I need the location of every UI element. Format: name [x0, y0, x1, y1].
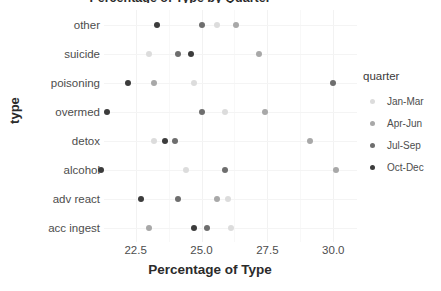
data-point [199, 109, 205, 115]
chart-title: Percentage of Type by Quarter [0, 0, 360, 3]
x-tick-label: 30.0 [322, 244, 344, 256]
data-point [183, 167, 189, 173]
y-tick-label: poisoning [4, 77, 100, 89]
data-point [333, 167, 339, 173]
scatter-chart: Percentage of Type by Quarter type other… [0, 0, 441, 291]
x-axis-title: Percentage of Type [60, 262, 360, 277]
data-point [146, 51, 152, 57]
y-tick-label: detox [4, 135, 100, 147]
gridline-major [333, 10, 334, 242]
data-point [262, 109, 268, 115]
data-point [104, 109, 110, 115]
data-point [175, 51, 181, 57]
legend-label: Jul-Sep [387, 140, 421, 151]
data-point [151, 80, 157, 86]
data-point [222, 109, 228, 115]
data-point [233, 22, 239, 28]
legend-item[interactable]: Jul-Sep [363, 134, 441, 156]
data-point [125, 80, 131, 86]
x-tick-label: 27.5 [256, 244, 278, 256]
data-point [225, 196, 231, 202]
data-point [162, 138, 168, 144]
legend-item[interactable]: Apr-Jun [363, 112, 441, 134]
legend-item[interactable]: Oct-Dec [363, 156, 441, 178]
data-point [98, 167, 104, 173]
data-point [214, 196, 220, 202]
gridline-row [104, 112, 357, 113]
data-point [330, 80, 336, 86]
y-tick-label: acc ingest [4, 222, 100, 234]
y-tick-label: adv react [4, 193, 100, 205]
gridline-minor [234, 10, 235, 242]
data-point [154, 22, 160, 28]
gridline-row [104, 54, 357, 55]
legend-label: Oct-Dec [387, 162, 424, 173]
legend-dot-icon [370, 99, 375, 104]
data-point [204, 225, 210, 231]
data-point [172, 138, 178, 144]
legend-dot-icon [370, 143, 375, 148]
data-point [151, 138, 157, 144]
legend-label: Apr-Jun [387, 118, 422, 129]
gridline-minor [169, 10, 170, 242]
gridline-major [202, 10, 203, 242]
gridline-row [104, 83, 357, 84]
x-tick-label: 22.5 [124, 244, 146, 256]
gridline-minor [300, 10, 301, 242]
legend-entries: Jan-MarApr-JunJul-SepOct-Dec [363, 90, 441, 178]
legend-dot-icon [370, 165, 375, 170]
gridline-row [104, 170, 357, 171]
y-tick-label: overmed [4, 106, 100, 118]
gridline-row [104, 25, 357, 26]
legend-swatch [363, 99, 381, 104]
data-point [191, 225, 197, 231]
y-tick-label: alcohol [4, 164, 100, 176]
legend-label: Jan-Mar [387, 96, 424, 107]
data-point [175, 196, 181, 202]
gridline-row [104, 141, 357, 142]
legend-dot-icon [370, 121, 375, 126]
data-point [188, 51, 194, 57]
y-tick-label: suicide [4, 48, 100, 60]
x-tick-label: 25.0 [190, 244, 212, 256]
data-point [307, 138, 313, 144]
x-axis-tick-labels: 22.525.027.530.0 [104, 244, 357, 260]
gridline-major [267, 10, 268, 242]
data-point [191, 80, 197, 86]
legend: quarter Jan-MarApr-JunJul-SepOct-Dec [363, 70, 441, 178]
data-point [146, 225, 152, 231]
legend-title: quarter [363, 70, 441, 82]
legend-swatch [363, 165, 381, 170]
data-point [222, 167, 228, 173]
plot-panel [104, 10, 357, 242]
legend-swatch [363, 143, 381, 148]
y-axis-tick-labels: othersuicidepoisoningovermeddetoxalcohol… [0, 10, 100, 242]
legend-item[interactable]: Jan-Mar [363, 90, 441, 112]
legend-swatch [363, 121, 381, 126]
data-point [199, 22, 205, 28]
data-point [214, 22, 220, 28]
y-tick-label: other [4, 19, 100, 31]
gridline-major [136, 10, 137, 242]
data-point [256, 51, 262, 57]
data-point [228, 225, 234, 231]
data-point [138, 196, 144, 202]
